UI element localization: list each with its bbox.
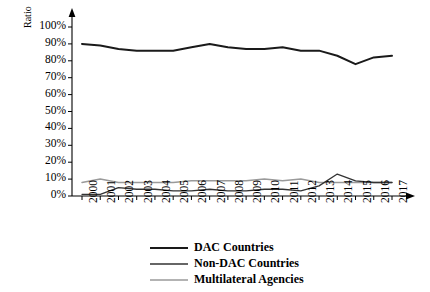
x-axis-tick-label: 2004	[160, 180, 172, 203]
y-axis-tick-label: 80%	[24, 53, 66, 65]
x-axis-tick-label: 2003	[142, 180, 154, 203]
y-axis-tick-label: 30%	[24, 137, 66, 149]
x-axis-tick-label: 2011	[288, 180, 300, 203]
y-axis-tick-label: 70%	[24, 70, 66, 82]
x-axis-tick-label: 2000	[87, 180, 99, 203]
y-axis-tick-label: 90%	[24, 36, 66, 48]
y-axis-tick-label: 10%	[24, 171, 66, 183]
x-axis-tick-label: 2005	[178, 180, 190, 203]
x-axis-tick-label: 2001	[105, 180, 117, 203]
y-axis-tick-label: 20%	[24, 154, 66, 166]
y-axis-tick-label: 40%	[24, 120, 66, 132]
y-axis-tick-label: 0%	[24, 188, 66, 200]
x-axis-tick-label: 2006	[196, 180, 208, 203]
x-axis-tick-label: 2014	[342, 180, 354, 203]
series-line	[82, 44, 392, 64]
legend-label: DAC Countries	[194, 240, 274, 255]
y-axis-arrow	[69, 8, 76, 17]
x-axis-tick-label: 2010	[269, 180, 281, 203]
y-axis-tick-label: 60%	[24, 87, 66, 99]
x-axis-tick-label: 2008	[233, 180, 245, 203]
x-axis-tick-label: 2009	[251, 180, 263, 203]
x-axis-tick-label: 2013	[324, 180, 336, 203]
x-axis-tick-label: 2015	[361, 180, 373, 203]
y-axis-tick-label: 100%	[24, 19, 66, 31]
x-axis-tick-label: 2002	[123, 180, 135, 203]
x-axis-tick-label: 2012	[306, 180, 318, 203]
y-axis-tick-label: 50%	[24, 104, 66, 116]
chart-figure: Ratio 0%10%20%30%40%50%60%70%80%90%100%2…	[0, 0, 430, 292]
x-axis-tick-label: 2007	[215, 180, 227, 203]
legend-label: Non-DAC Countries	[194, 256, 299, 271]
legend-label: Multilateral Agencies	[194, 272, 304, 287]
x-axis-tick-label: 2017	[397, 180, 409, 203]
x-axis-tick-label: 2016	[379, 180, 391, 203]
